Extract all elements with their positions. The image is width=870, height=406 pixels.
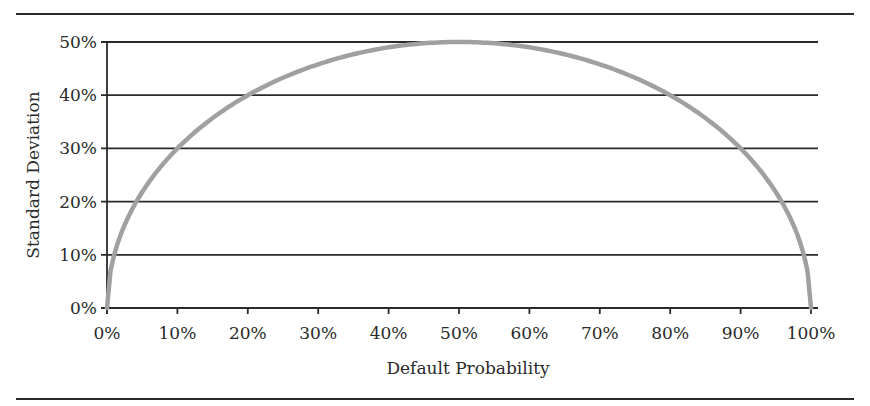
y-tick-label: 0% <box>70 298 97 318</box>
x-tick-label: 90% <box>722 323 760 343</box>
x-tick-label: 30% <box>299 323 337 343</box>
x-tick-label: 70% <box>581 323 619 343</box>
data-series <box>107 42 811 308</box>
x-tick-label: 80% <box>651 323 689 343</box>
x-tick-label: 10% <box>159 323 197 343</box>
x-tick-label: 0% <box>94 323 121 343</box>
y-tick-label: 50% <box>59 32 97 52</box>
x-tick-label: 100% <box>787 323 836 343</box>
chart-plot: 0%10%20%30%40%50%0%10%20%30%40%50%60%70%… <box>0 0 870 406</box>
y-tick-label: 30% <box>59 138 97 158</box>
x-tick-label: 50% <box>440 323 478 343</box>
x-tick-label: 60% <box>511 323 549 343</box>
tick-labels: 0%10%20%30%40%50%0%10%20%30%40%50%60%70%… <box>59 32 835 343</box>
y-tick-label: 10% <box>59 245 97 265</box>
y-axis-title: Standard Deviation <box>23 91 43 258</box>
x-axis-title: Default Probability <box>386 358 550 378</box>
x-tick-label: 20% <box>229 323 267 343</box>
x-tick-label: 40% <box>370 323 408 343</box>
y-tick-label: 20% <box>59 192 97 212</box>
gridlines <box>101 42 818 308</box>
axes <box>107 42 811 314</box>
y-tick-label: 40% <box>59 85 97 105</box>
std-dev-curve <box>107 42 811 308</box>
